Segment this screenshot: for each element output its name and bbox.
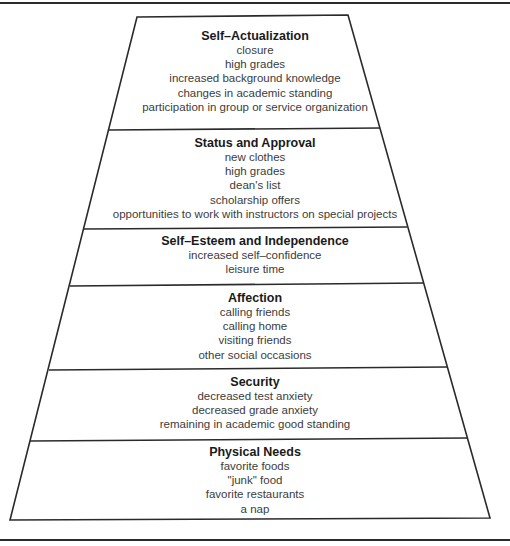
layer-item: high grades	[0, 164, 510, 178]
layer-item: calling home	[0, 319, 510, 333]
layer-item: closure	[0, 43, 510, 57]
layer-item: "junk" food	[0, 473, 510, 487]
layer-item: calling friends	[0, 305, 510, 319]
layer-item: participation in group or service organi…	[0, 100, 510, 114]
layer-item-list: calling friends calling home visiting fr…	[0, 305, 510, 362]
layer-self-esteem-and-independence: Self–Esteem and Independence increased s…	[0, 234, 510, 276]
separator-2	[84, 227, 407, 229]
layer-item: remaining in academic good standing	[0, 417, 510, 431]
layer-item-list: increased self–confidence leisure time	[0, 248, 510, 276]
layer-item: increased background knowledge	[0, 71, 510, 85]
layer-item: scholarship offers	[0, 193, 510, 207]
separator-4	[49, 367, 447, 370]
separator-1	[109, 128, 380, 130]
layer-title: Physical Needs	[0, 445, 510, 459]
layer-item: decreased grade anxiety	[0, 403, 510, 417]
layer-item: other social occasions	[0, 348, 510, 362]
layer-physical-needs: Physical Needs favorite foods "junk" foo…	[0, 445, 510, 516]
layer-item: new clothes	[0, 150, 510, 164]
layer-item-list: new clothes high grades dean's list scho…	[0, 150, 510, 221]
layer-affection: Affection calling friends calling home v…	[0, 291, 510, 362]
layer-title: Self–Esteem and Independence	[0, 234, 510, 248]
layer-title: Affection	[0, 291, 510, 305]
layer-item: changes in academic standing	[0, 86, 510, 100]
layer-title: Security	[0, 375, 510, 389]
needs-pyramid-diagram: Self–Actualization closure high grades i…	[0, 0, 510, 546]
separator-3	[70, 283, 424, 286]
layer-item: increased self–confidence	[0, 248, 510, 262]
layer-item: favorite restaurants	[0, 487, 510, 501]
layer-item: visiting friends	[0, 333, 510, 347]
layer-item: decreased test anxiety	[0, 389, 510, 403]
layer-item: high grades	[0, 57, 510, 71]
layer-item-list: closure high grades increased background…	[0, 43, 510, 114]
layer-item-list: favorite foods "junk" food favorite rest…	[0, 459, 510, 516]
layer-item: dean's list	[0, 178, 510, 192]
layer-title: Self–Actualization	[0, 29, 510, 43]
layer-item: favorite foods	[0, 459, 510, 473]
layer-status-and-approval: Status and Approval new clothes high gra…	[0, 136, 510, 221]
separator-5	[30, 438, 467, 441]
layer-item: opportunities to work with instructors o…	[0, 207, 510, 221]
layer-item: a nap	[0, 502, 510, 516]
layer-item-list: decreased test anxiety decreased grade a…	[0, 389, 510, 432]
layer-security: Security decreased test anxiety decrease…	[0, 375, 510, 432]
layer-self-actualization: Self–Actualization closure high grades i…	[0, 29, 510, 114]
layer-item: leisure time	[0, 262, 510, 276]
layer-title: Status and Approval	[0, 136, 510, 150]
